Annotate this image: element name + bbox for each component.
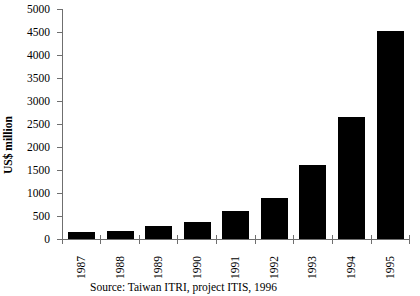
y-tick-label-5000: 5000 xyxy=(8,4,50,16)
source-note: Source: Taiwan ITRI, project ITIS, 1996 xyxy=(90,281,277,293)
bar-1991 xyxy=(222,211,249,239)
x-category-label-1990: 1990 xyxy=(190,245,204,279)
x-tick-mark-9 xyxy=(409,235,410,244)
y-tick-label-0: 0 xyxy=(8,234,50,246)
bar-1987 xyxy=(68,232,95,239)
bar-1992 xyxy=(261,198,288,239)
bar-1989 xyxy=(145,226,172,239)
bar-1994 xyxy=(338,117,365,239)
x-category-label-1995: 1995 xyxy=(383,245,397,279)
x-category-label-1991: 1991 xyxy=(228,245,242,279)
x-tick-mark-1 xyxy=(100,235,101,244)
bar-1990 xyxy=(184,222,211,239)
x-tick-mark-2 xyxy=(139,235,140,244)
y-tick-label-500: 500 xyxy=(8,211,50,223)
y-tick-label-2500: 2500 xyxy=(8,119,50,131)
y-tick-label-1000: 1000 xyxy=(8,188,50,200)
x-tick-mark-4 xyxy=(216,235,217,244)
x-category-label-1994: 1994 xyxy=(344,245,358,279)
x-tick-mark-7 xyxy=(332,235,333,244)
x-category-label-1993: 1993 xyxy=(305,245,319,279)
x-category-label-1989: 1989 xyxy=(151,245,165,279)
y-tick-label-4000: 4000 xyxy=(8,50,50,62)
x-tick-mark-5 xyxy=(255,235,256,244)
bar-chart-figure: US$ million 5000 4500 4000 3500 3000 250… xyxy=(0,0,420,296)
x-category-label-1988: 1988 xyxy=(113,245,127,279)
y-tick-label-3000: 3000 xyxy=(8,96,50,108)
bar-1988 xyxy=(107,231,134,239)
x-tick-mark-6 xyxy=(293,235,294,244)
x-tick-mark-0 xyxy=(62,235,63,244)
y-tick-label-2000: 2000 xyxy=(8,142,50,154)
bar-1993 xyxy=(299,165,326,239)
x-category-label-1987: 1987 xyxy=(74,245,88,279)
y-axis-line xyxy=(62,9,63,240)
bar-1995 xyxy=(377,31,404,239)
x-category-label-1992: 1992 xyxy=(267,245,281,279)
x-tick-mark-3 xyxy=(177,235,178,244)
x-tick-mark-8 xyxy=(371,235,372,244)
x-axis-line xyxy=(62,239,410,240)
y-tick-label-1500: 1500 xyxy=(8,165,50,177)
y-tick-label-3500: 3500 xyxy=(8,73,50,85)
y-tick-label-4500: 4500 xyxy=(8,27,50,39)
